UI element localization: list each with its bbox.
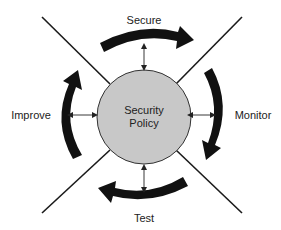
divider-bottom-right — [176, 150, 242, 213]
arrow-improve-to-secure-icon — [61, 70, 82, 159]
stage-label-improve: Improve — [11, 109, 51, 121]
center-label: Security Policy — [124, 104, 164, 130]
arrow-monitor-to-test-icon — [202, 68, 223, 160]
stage-label-test: Test — [134, 212, 154, 224]
center-label-line1: Security — [124, 104, 164, 117]
arrow-test-to-improve-icon — [98, 177, 188, 203]
center-label-line2: Policy — [124, 117, 164, 130]
arrow-secure-to-monitor-icon — [100, 26, 194, 52]
stage-label-monitor: Monitor — [235, 109, 272, 121]
stage-label-secure: Secure — [127, 14, 162, 26]
divider-bottom-left — [42, 150, 110, 213]
